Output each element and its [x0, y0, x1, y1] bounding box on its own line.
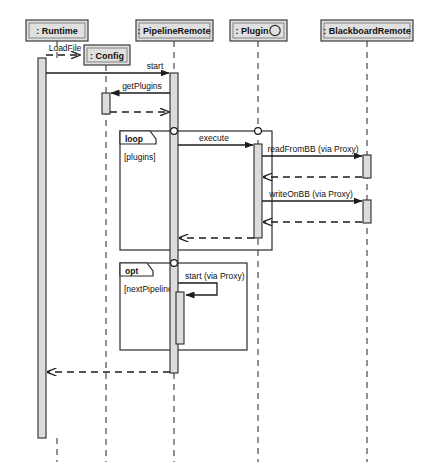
activation-config: [102, 93, 110, 114]
activation-runtime: [38, 58, 46, 438]
lifeline-header-blackboard[interactable]: : BlackboardRemote: [321, 20, 413, 41]
lifeline-header-blackboard-label: : BlackboardRemote: [323, 26, 411, 36]
activation-plugin: [254, 144, 262, 238]
lifeline-header-pipeline[interactable]: : PipelineRemote: [136, 20, 213, 41]
message-start-label: start: [147, 61, 164, 71]
fragment-opt-operator: opt: [125, 266, 138, 276]
lifeline-header-runtime-label: : Runtime: [36, 26, 78, 36]
lifeline-header-runtime[interactable]: : Runtime: [26, 20, 88, 41]
gate-loop-pipeline-icon: [171, 128, 178, 135]
fragment-opt-guard: [nextPipeline]: [124, 284, 175, 294]
message-getplugins[interactable]: getPlugins: [111, 81, 170, 93]
fragment-loop[interactable]: loop [plugins]: [120, 131, 272, 250]
lifeline-header-config[interactable]: : Config: [84, 45, 130, 65]
fragment-loop-frame: [120, 131, 272, 250]
message-execute-label: execute: [199, 133, 229, 143]
message-execute[interactable]: execute: [178, 133, 253, 145]
interface-circle-icon: [270, 25, 280, 35]
lifeline-header-config-label: : Config: [90, 51, 124, 61]
message-readfrombb[interactable]: readFromBB (via Proxy): [262, 144, 362, 156]
message-writeonbb-label: writeOnBB (via Proxy): [268, 189, 353, 199]
message-start-via-proxy-label: start (via Proxy): [185, 271, 245, 281]
lifeline-header-pipeline-label: : PipelineRemote: [137, 26, 210, 36]
fragment-loop-guard: [plugins]: [124, 152, 156, 162]
gate-loop-plugin-icon: [255, 128, 262, 135]
activation-blackboard-read: [363, 155, 371, 178]
lifeline-header-plugin-label: : Plugin: [236, 26, 269, 36]
sequence-diagram-canvas: loop [plugins] opt [nextPipeline] LoadFi…: [0, 0, 427, 467]
message-readfrombb-label: readFromBB (via Proxy): [267, 144, 358, 154]
message-start-via-proxy[interactable]: start (via Proxy): [178, 271, 245, 295]
activation-bars: [38, 58, 371, 438]
message-getplugins-label: getPlugins: [122, 81, 162, 91]
message-writeonbb[interactable]: writeOnBB (via Proxy): [262, 189, 362, 201]
lifeline-header-plugin[interactable]: : Plugin: [230, 20, 287, 41]
message-loadfile-label: LoadFile: [49, 43, 82, 53]
message-loadfile[interactable]: LoadFile: [46, 43, 82, 55]
fragment-gates: [171, 128, 262, 267]
sequence-diagram-svg: loop [plugins] opt [nextPipeline] LoadFi…: [0, 0, 427, 467]
activation-pipeline-nested: [176, 292, 184, 344]
activation-blackboard-write: [363, 200, 371, 223]
gate-opt-pipeline-icon: [171, 260, 178, 267]
fragment-loop-operator: loop: [125, 134, 143, 144]
